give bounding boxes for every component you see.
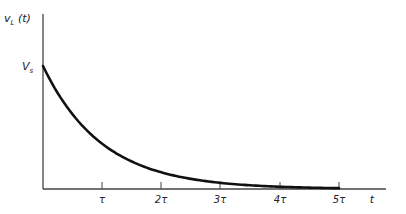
tick-label-tau: τ (99, 194, 106, 205)
decay-chart: vL (t) Vs τ 2τ 3τ 4τ 5τ t (0, 0, 406, 214)
x-axis-label: t (370, 193, 375, 206)
tick-label-4tau: 4τ (274, 194, 287, 205)
y-axis-label: vL (t) (4, 12, 31, 27)
tick-label-3tau: 3τ (214, 194, 227, 205)
tick-label-5tau: 5τ (333, 194, 346, 205)
decay-curve (43, 66, 339, 188)
vs-label: Vs (22, 60, 34, 75)
tick-label-2tau: 2τ (155, 194, 168, 205)
